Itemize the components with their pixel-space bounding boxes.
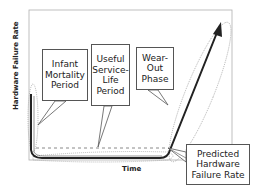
useful-callout-line-2: Service-: [92, 65, 129, 76]
infant-callout-line-2: Mortality: [45, 70, 85, 81]
infant-callout-line-1: Infant: [52, 59, 78, 70]
infant-period-highlight: [28, 84, 38, 152]
wearout-callout-line-2: Out: [147, 63, 163, 74]
useful-callout-line-1: Useful: [96, 54, 124, 65]
wearout-callout-line-3: Phase: [142, 74, 169, 85]
predicted-callout-line-1: Predicted: [197, 149, 239, 160]
useful-life-callout: Useful Service- Life Period: [91, 44, 130, 106]
bathtub-curve-diagram: Infant Mortality Period Useful Service- …: [0, 0, 260, 193]
x-axis-label: Time: [122, 165, 141, 173]
useful-callout-line-3: Life: [102, 75, 118, 86]
wearout-callout-line-1: Wear-: [142, 53, 168, 64]
predicted-failure-rate-callout: Predicted Hardware Failure Rate: [186, 144, 250, 185]
useful-life-highlight: [33, 152, 173, 163]
wearout-callout-pointer: [148, 90, 168, 105]
useful-callout-pointer: [98, 106, 112, 147]
wearout-callout: Wear- Out Phase: [136, 47, 174, 90]
infant-callout-line-3: Period: [51, 80, 79, 91]
infant-mortality-callout: Infant Mortality Period: [42, 49, 88, 101]
y-axis-label: Hardware Failure Rate: [12, 21, 20, 110]
wearout-arrowhead-icon: [213, 22, 222, 37]
useful-callout-line-4: Period: [96, 86, 124, 97]
predicted-callout-line-3: Failure Rate: [191, 170, 244, 181]
infant-callout-pointer: [38, 101, 66, 125]
predicted-callout-line-2: Hardware: [196, 159, 239, 170]
